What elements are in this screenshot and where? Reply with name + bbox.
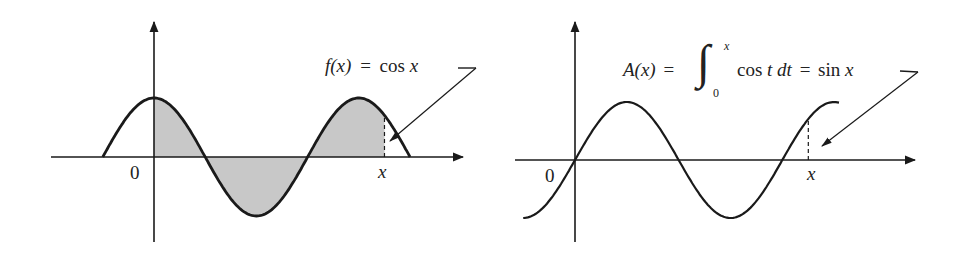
figure-canvas	[0, 0, 963, 253]
origin-label: 0	[130, 163, 140, 182]
integral-lower-limit: 0	[713, 87, 719, 99]
x-label: x	[807, 164, 815, 183]
label-tick	[900, 71, 918, 72]
function-rhs: cos x	[380, 55, 419, 76]
function-label: f(x) = cos x	[325, 56, 418, 75]
right-panel	[515, 22, 918, 242]
integral-upper-limit: x	[724, 40, 729, 52]
function-lhs: f(x)	[325, 55, 351, 76]
integral-lhs: A(x)	[623, 59, 656, 80]
integral-rhs: cos t dt = sin x	[737, 60, 853, 79]
label-pointer-arrow	[390, 68, 476, 141]
equals-sign: =	[360, 55, 371, 76]
integral-sign: ∫	[697, 38, 710, 86]
equals-sign: =	[663, 59, 674, 80]
integral-label: A(x) =	[623, 60, 677, 79]
label-pointer-arrow	[822, 72, 918, 146]
x-label: x	[378, 162, 386, 181]
origin-label: 0	[545, 166, 555, 185]
